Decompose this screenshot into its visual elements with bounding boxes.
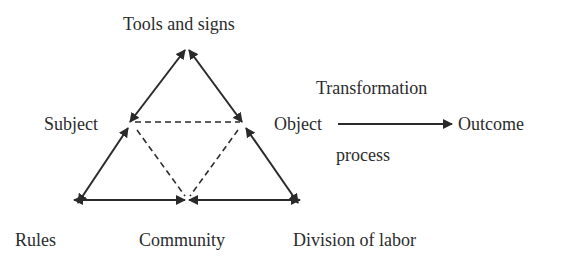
edge-subject-tools [130,50,185,122]
edge-subject-rules [78,128,128,203]
node-division-label: Division of labor [293,230,416,250]
node-subject-label: Subject [44,114,98,134]
node-rules-label: Rules [15,230,56,250]
node-community-label: Community [139,230,225,250]
edge-tools-object [189,50,242,122]
node-object-label: Object [274,114,322,134]
edge-object-division [246,128,298,203]
node-outcome-label: Outcome [458,114,524,134]
edge-subject-community-dashed [137,130,185,196]
transformation-label: Transformation [316,78,427,98]
process-label: process [336,145,390,165]
edge-object-community-dashed [190,130,238,196]
node-tools-label: Tools and signs [123,14,235,34]
activity-system-diagram: Tools and signs Subject Object Outcome T… [0,0,567,264]
